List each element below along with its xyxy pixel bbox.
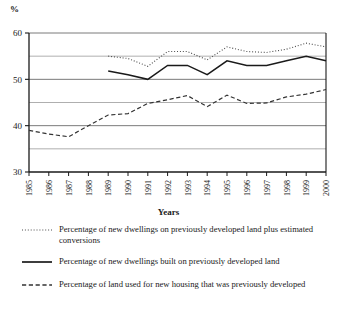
chart-figure: % 30405060198519861987198819891990199119…	[0, 0, 337, 328]
x-tick-label: 1996	[243, 180, 252, 196]
legend-item: Percentage of new dwellings on previousl…	[22, 224, 327, 245]
x-tick-label: 2000	[322, 180, 331, 196]
y-tick-label: 50	[13, 75, 23, 85]
x-tick-label: 1986	[45, 180, 54, 196]
y-tick-label: 30	[13, 167, 23, 177]
legend-item: Percentage of new dwellings built on pre…	[22, 256, 327, 268]
x-tick-label: 1994	[203, 180, 212, 196]
x-tick-label: 1987	[65, 180, 74, 196]
legend-item: Percentage of land used for new housing …	[22, 279, 327, 291]
legend-swatch-dashed	[22, 279, 52, 291]
x-tick-label: 1992	[164, 180, 173, 196]
y-tick-label: 60	[13, 28, 23, 38]
x-tick-label: 1991	[144, 180, 153, 196]
legend-swatch-dotted	[22, 224, 52, 236]
chart-legend: Percentage of new dwellings on previousl…	[22, 224, 327, 302]
x-tick-label: 1995	[223, 180, 232, 196]
legend-swatch-solid	[22, 256, 52, 268]
legend-label: Percentage of new dwellings built on pre…	[59, 256, 280, 267]
x-tick-label: 1997	[263, 180, 272, 196]
line-chart-plot: 3040506019851986198719881989199019911992…	[0, 0, 337, 205]
x-tick-label: 1988	[85, 180, 94, 196]
x-tick-label: 1990	[124, 180, 133, 196]
x-tick-label: 1993	[184, 180, 193, 196]
x-axis-title: Years	[0, 207, 337, 217]
x-tick-label: 1985	[25, 180, 34, 196]
x-tick-label: 1989	[104, 180, 113, 196]
legend-label: Percentage of land used for new housing …	[59, 279, 305, 290]
legend-label: Percentage of new dwellings on previousl…	[59, 224, 327, 245]
x-tick-label: 1998	[283, 180, 292, 196]
x-tick-label: 1999	[302, 180, 311, 196]
y-tick-label: 40	[13, 121, 23, 131]
